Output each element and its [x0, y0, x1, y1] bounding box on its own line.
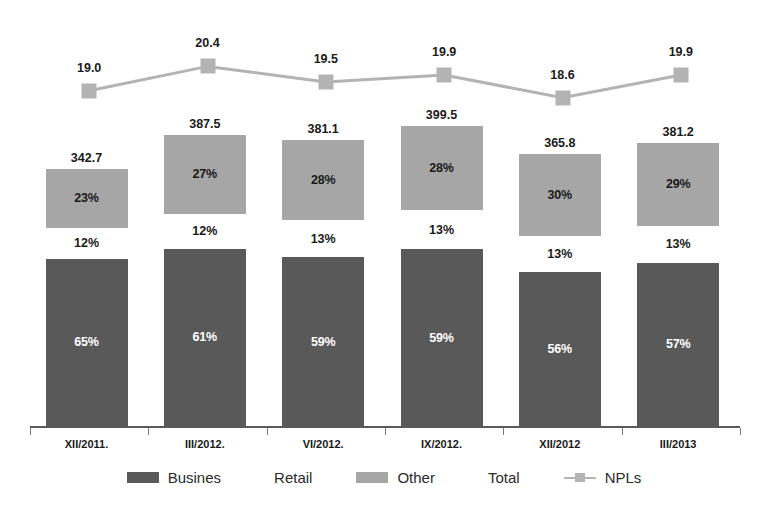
- bar-segment-busines: 65%: [46, 259, 128, 426]
- x-axis-category-label: XII/2011.: [30, 438, 143, 450]
- bar-segment-retail: 13%: [519, 236, 601, 272]
- x-axis-category-label: IX/2012.: [385, 438, 498, 450]
- segment-label-retail: 13%: [623, 237, 733, 251]
- bar-segment-other: 23%: [46, 169, 128, 228]
- chart-legend: BusinesRetailOtherTotalNPLs: [0, 455, 768, 500]
- npl-value-label: 20.4: [195, 36, 219, 50]
- bar-segment-retail: 13%: [282, 220, 364, 257]
- total-value-label: 342.7: [30, 151, 143, 165]
- npl-data-marker: [673, 68, 688, 83]
- bar-segment-other: 28%: [282, 140, 364, 220]
- legend-item-total: Total: [479, 469, 520, 486]
- bar-segment-busines: 61%: [164, 249, 246, 427]
- bar-column: 342.723%12%65%: [30, 151, 143, 426]
- legend-swatch-npls-line-icon: [564, 472, 596, 483]
- segment-label-retail: 13%: [387, 223, 497, 237]
- total-value-label: 381.1: [267, 122, 380, 136]
- segment-label-other: 23%: [46, 191, 128, 205]
- segment-label-busines: 65%: [46, 335, 128, 349]
- legend-swatch-busines-icon: [127, 472, 159, 483]
- total-value-label: 381.2: [622, 125, 735, 139]
- x-axis-category-label: XII/2012: [503, 438, 616, 450]
- legend-item-other: Other: [356, 469, 435, 486]
- x-axis-category-label: III/2013: [622, 438, 735, 450]
- npl-value-label: 19.5: [314, 52, 338, 66]
- bar-segment-other: 30%: [519, 154, 601, 236]
- total-value-label: 365.8: [503, 136, 616, 150]
- legend-label: Retail: [274, 469, 312, 486]
- npl-value-label: 19.0: [77, 61, 101, 75]
- bar-segment-other: 28%: [401, 126, 483, 210]
- legend-label: Other: [397, 469, 435, 486]
- npl-data-marker: [555, 90, 570, 105]
- npl-data-marker: [82, 83, 97, 98]
- npl-data-marker: [200, 59, 215, 74]
- x-axis-tick: [503, 428, 504, 435]
- bar-segment-busines: 59%: [401, 249, 483, 426]
- segment-label-busines: 61%: [164, 330, 246, 344]
- bar-segment-retail: 13%: [401, 210, 483, 249]
- legend-swatch-other-icon: [356, 472, 388, 483]
- segment-label-other: 28%: [282, 173, 364, 187]
- segment-label-retail: 13%: [505, 247, 615, 261]
- x-axis-tick: [385, 428, 386, 435]
- segment-label-busines: 57%: [637, 337, 719, 351]
- segment-label-other: 27%: [164, 167, 246, 181]
- bar-segment-retail: 13%: [637, 226, 719, 263]
- npl-value-label: 19.9: [669, 45, 693, 59]
- legend-item-npls: NPLs: [564, 469, 642, 486]
- plot-area: 19.020.419.519.918.619.9 342.723%12%65%X…: [30, 8, 740, 433]
- bar-column: 365.830%13%56%: [503, 136, 616, 426]
- bar-segment-busines: 59%: [282, 257, 364, 426]
- legend-label: Total: [488, 469, 520, 486]
- bar-column: 381.128%13%59%: [267, 122, 380, 426]
- bar-column: 387.527%12%61%: [148, 117, 261, 426]
- segment-label-busines: 56%: [519, 342, 601, 356]
- x-axis-category-label: VI/2012.: [267, 438, 380, 450]
- x-axis-tick: [622, 428, 623, 435]
- segment-label-busines: 59%: [282, 335, 364, 349]
- segment-label-other: 28%: [401, 161, 483, 175]
- bar-segment-retail: 12%: [46, 228, 128, 259]
- legend-item-busines: Busines: [127, 469, 221, 486]
- bar-column: 381.229%13%57%: [622, 125, 735, 426]
- x-axis-category-label: III/2012.: [148, 438, 261, 450]
- segment-label-busines: 59%: [401, 331, 483, 345]
- bar-segment-busines: 56%: [519, 272, 601, 426]
- x-axis-tick: [148, 428, 149, 435]
- legend-label: NPLs: [605, 469, 642, 486]
- bar-column: 399.528%13%59%: [385, 108, 498, 426]
- bar-segment-busines: 57%: [637, 263, 719, 426]
- segment-label-other: 29%: [637, 177, 719, 191]
- npl-data-marker: [437, 68, 452, 83]
- legend-label: Busines: [168, 469, 221, 486]
- x-axis-tick: [740, 428, 741, 435]
- chart-container: 19.020.419.519.918.619.9 342.723%12%65%X…: [0, 0, 768, 513]
- segment-label-retail: 12%: [150, 224, 260, 238]
- segment-label-retail: 12%: [32, 236, 142, 250]
- bar-segment-retail: 12%: [164, 214, 246, 249]
- npl-value-label: 19.9: [432, 45, 456, 59]
- npl-value-label: 18.6: [550, 68, 574, 82]
- segment-label-other: 30%: [519, 188, 601, 202]
- x-axis-tick: [267, 428, 268, 435]
- bar-segment-other: 29%: [637, 143, 719, 226]
- segment-label-retail: 13%: [268, 232, 378, 246]
- npl-data-marker: [318, 75, 333, 90]
- bar-segment-other: 27%: [164, 135, 246, 214]
- total-value-label: 399.5: [385, 108, 498, 122]
- x-axis-tick: [30, 428, 31, 435]
- legend-item-retail: Retail: [265, 469, 312, 486]
- total-value-label: 387.5: [148, 117, 261, 131]
